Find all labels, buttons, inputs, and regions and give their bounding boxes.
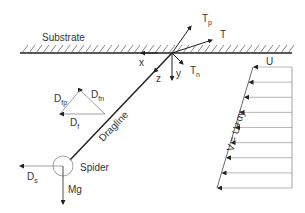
tension-n-arrow — [172, 53, 183, 64]
drag-s-label: Ds — [27, 171, 38, 184]
substrate-hatching — [22, 45, 294, 53]
flow-equation-label: V = U+αy — [224, 109, 246, 152]
z-axis-arrow — [154, 66, 160, 72]
hatch-mark — [71, 45, 77, 53]
hatch-mark — [197, 45, 203, 53]
spider-label: Spider — [80, 162, 110, 173]
hatch-mark — [211, 45, 217, 53]
hatch-mark — [85, 45, 91, 53]
substrate-label: Substrate — [42, 32, 85, 43]
hatch-mark — [281, 45, 287, 53]
hatch-mark — [239, 45, 245, 53]
hatch-mark — [120, 45, 126, 53]
hatch-mark — [232, 45, 238, 53]
hatch-mark — [36, 45, 42, 53]
hatch-mark — [106, 45, 112, 53]
hatch-mark — [64, 45, 70, 53]
hatch-mark — [204, 45, 210, 53]
hatch-mark — [225, 45, 231, 53]
hatch-mark — [78, 45, 84, 53]
hatch-mark — [99, 45, 105, 53]
hatch-mark — [50, 45, 56, 53]
flow-u-label: U — [266, 56, 273, 67]
flow-arrows — [218, 67, 292, 188]
hatch-mark — [162, 45, 168, 53]
weight-label: Mg — [68, 184, 82, 195]
hatch-mark — [141, 45, 147, 53]
hatch-mark — [29, 45, 35, 53]
z-axis-label: z — [156, 73, 161, 84]
hatch-mark — [92, 45, 98, 53]
hatch-mark — [267, 45, 273, 53]
drag-fn-label: Dfn — [91, 89, 104, 102]
hatch-mark — [253, 45, 259, 53]
hatch-mark — [155, 45, 161, 53]
drag-fp-label: Dfp — [54, 93, 67, 107]
drag-f-label: Df — [70, 117, 79, 130]
tension-arrow — [172, 40, 212, 53]
substrate — [20, 45, 294, 53]
spider-dragline-diagram: Substrate x y Tp T Tn z Dragline Dfp Dfn… — [0, 0, 305, 213]
hatch-mark — [288, 45, 294, 53]
hatch-mark — [148, 45, 154, 53]
velocity-profile — [217, 67, 292, 188]
hatch-mark — [246, 45, 252, 53]
hatch-mark — [127, 45, 133, 53]
x-axis-label: x — [139, 57, 144, 68]
tension-label: T — [220, 29, 226, 40]
y-axis-label: y — [176, 68, 181, 79]
hatch-mark — [22, 45, 28, 53]
hatch-mark — [43, 45, 49, 53]
hatch-mark — [260, 45, 266, 53]
tension-n-label: Tn — [190, 65, 200, 78]
hatch-mark — [274, 45, 280, 53]
tension-p-label: Tp — [202, 13, 212, 27]
tension-p-arrow — [172, 26, 191, 53]
hatch-mark — [57, 45, 63, 53]
hatch-mark — [113, 45, 119, 53]
hatch-mark — [134, 45, 140, 53]
hatch-mark — [218, 45, 224, 53]
